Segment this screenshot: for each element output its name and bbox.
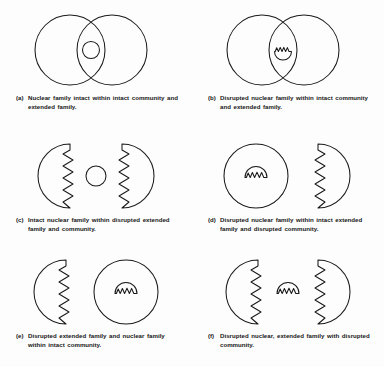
nuclear-family-circle-disrupted [275,47,292,60]
extended-family-circle [35,15,105,85]
panel-b-diagram [192,6,384,94]
community-circle-disrupted [119,144,154,208]
panel-a: (a) Nuclear family intact within intact … [0,6,192,111]
community-circle [77,15,147,85]
panel-c: (c) Intact nuclear family within disrupt… [0,136,192,233]
community-circle-disrupted [315,260,350,324]
nuclear-family-circle-intact [86,166,106,186]
community-circle-disrupted [315,144,350,208]
nuclear-family-circle-disrupted [277,283,299,294]
community-circle [94,260,158,324]
panel-d: (d) Disrupted nuclear family within inta… [192,136,384,233]
panel-b-caption-text: Disrupted nuclear family within intact c… [208,94,374,111]
panel-e-caption-text: Disrupted extended family and nuclear fa… [16,332,182,349]
panel-e-label: (e) [16,332,24,341]
panel-d-caption-text: Disrupted nuclear family within intact e… [208,216,374,233]
panel-b: (b) Disrupted nuclear family within inta… [192,6,384,111]
panel-f-label: (f) [208,332,214,341]
extended-family-circle-disrupted [34,260,69,324]
figure-sheet: (a) Nuclear family intact within intact … [0,0,384,367]
panel-e: (e) Disrupted extended family and nuclea… [0,252,192,349]
panel-b-caption: (b) Disrupted nuclear family within inta… [192,94,384,111]
panel-f-diagram [192,252,384,332]
panel-f: (f) Disrupted nuclear, extended family w… [192,252,384,349]
panel-c-caption: (c) Intact nuclear family within disrupt… [0,216,192,233]
panel-f-caption: (f) Disrupted nuclear, extended family w… [192,332,384,349]
extended-family-circle-disrupted [38,144,73,208]
panel-d-label: (d) [208,216,216,225]
panel-b-label: (b) [208,94,216,103]
panel-e-caption: (e) Disrupted extended family and nuclea… [0,332,192,349]
panel-a-label: (a) [16,94,24,103]
panel-f-caption-text: Disrupted nuclear, extended family with … [208,332,374,349]
panel-c-caption-text: Intact nuclear family within disrupted e… [16,216,182,233]
nuclear-family-circle-intact [83,42,100,59]
nuclear-family-circle-disrupted [245,167,267,178]
nuclear-family-circle-disrupted [115,283,137,294]
panel-d-caption: (d) Disrupted nuclear family within inta… [192,216,384,233]
panel-a-caption-text: Nuclear family intact within intact comm… [16,94,182,111]
extended-family-circle [224,144,288,208]
panel-a-diagram [0,6,192,94]
panel-e-diagram [0,252,192,332]
panel-a-caption: (a) Nuclear family intact within intact … [0,94,192,111]
panel-c-label: (c) [16,216,24,225]
panel-c-diagram [0,136,192,216]
extended-family-circle-disrupted [226,260,261,324]
panel-d-diagram [192,136,384,216]
